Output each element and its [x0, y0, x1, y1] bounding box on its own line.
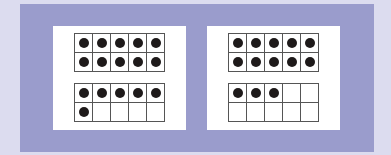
ten-frame-cell	[283, 103, 301, 122]
ten-frame-cell	[247, 53, 265, 72]
counter-dot-icon	[305, 38, 315, 48]
ten-frame-cell	[265, 34, 283, 53]
counter-dot-icon	[233, 57, 243, 67]
panel-right	[207, 26, 340, 130]
ten-frame-cell	[111, 103, 129, 122]
ten-frame-cell	[283, 34, 301, 53]
ten-frame-cell	[93, 34, 111, 53]
ten-frame-cell	[283, 53, 301, 72]
ten-frame-cell	[147, 84, 165, 103]
ten-frame-cell	[147, 103, 165, 122]
ten-frame-cell	[229, 53, 247, 72]
counter-dot-icon	[269, 88, 279, 98]
panel-left	[53, 26, 186, 130]
ten-frame-cell	[129, 84, 147, 103]
ten-frame-cell	[147, 34, 165, 53]
counter-dot-icon	[251, 38, 261, 48]
counter-dot-icon	[287, 57, 297, 67]
ten-frame-cell	[229, 34, 247, 53]
ten-frame-right-bottom	[228, 83, 319, 122]
ten-frame-cell	[301, 53, 319, 72]
counter-dot-icon	[269, 38, 279, 48]
counter-dot-icon	[79, 88, 89, 98]
ten-frame-cell	[301, 103, 319, 122]
ten-frame-cell	[247, 34, 265, 53]
counter-dot-icon	[133, 88, 143, 98]
counter-dot-icon	[79, 57, 89, 67]
ten-frame-left-top	[74, 33, 165, 72]
ten-frame-cell	[129, 53, 147, 72]
ten-frame-cell	[129, 34, 147, 53]
counter-dot-icon	[133, 38, 143, 48]
ten-frame-cell	[301, 34, 319, 53]
counter-dot-icon	[115, 57, 125, 67]
counter-dot-icon	[97, 38, 107, 48]
ten-frame-cell	[229, 84, 247, 103]
ten-frame-cell	[283, 84, 301, 103]
counter-dot-icon	[151, 38, 161, 48]
counter-dot-icon	[151, 57, 161, 67]
ten-frame-cell	[75, 34, 93, 53]
ten-frame-right-top	[228, 33, 319, 72]
counter-dot-icon	[115, 38, 125, 48]
ten-frame-cell	[265, 53, 283, 72]
counter-dot-icon	[79, 107, 89, 117]
counter-dot-icon	[305, 57, 315, 67]
counter-dot-icon	[97, 57, 107, 67]
ten-frame-cell	[247, 103, 265, 122]
counter-dot-icon	[251, 57, 261, 67]
ten-frame-cell	[111, 34, 129, 53]
counter-dot-icon	[79, 38, 89, 48]
ten-frame-cell	[129, 103, 147, 122]
ten-frame-cell	[265, 103, 283, 122]
ten-frame-left-bottom	[74, 83, 165, 122]
counter-dot-icon	[151, 88, 161, 98]
ten-frame-cell	[301, 84, 319, 103]
counter-dot-icon	[233, 38, 243, 48]
ten-frame-cell	[265, 84, 283, 103]
counter-dot-icon	[115, 88, 125, 98]
ten-frame-cell	[147, 53, 165, 72]
counter-dot-icon	[133, 57, 143, 67]
ten-frame-cell	[75, 84, 93, 103]
ten-frame-cell	[75, 53, 93, 72]
counter-dot-icon	[233, 88, 243, 98]
ten-frame-cell	[93, 103, 111, 122]
ten-frame-cell	[93, 53, 111, 72]
ten-frame-cell	[75, 103, 93, 122]
counter-dot-icon	[251, 88, 261, 98]
outer-frame	[20, 4, 374, 152]
ten-frame-cell	[111, 53, 129, 72]
counter-dot-icon	[269, 57, 279, 67]
counter-dot-icon	[97, 88, 107, 98]
ten-frame-cell	[247, 84, 265, 103]
ten-frame-cell	[229, 103, 247, 122]
ten-frame-cell	[93, 84, 111, 103]
ten-frame-cell	[111, 84, 129, 103]
counter-dot-icon	[287, 38, 297, 48]
